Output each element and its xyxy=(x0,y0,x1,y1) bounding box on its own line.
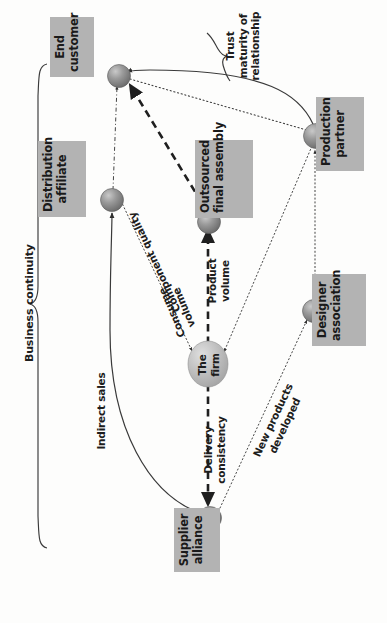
node-label-supplier-alliance[interactable]: Supplier alliance xyxy=(174,508,220,572)
node-label-line: Outsourced xyxy=(199,145,213,213)
edge-label-line: Indirect sales xyxy=(95,370,108,452)
node-label-line: Supplier xyxy=(178,513,192,567)
node-label-line: Designer xyxy=(316,279,330,341)
node-label-distribution-affiliate[interactable]: Distribution affiliate xyxy=(38,141,86,217)
edge-label-product-volume: Product volume xyxy=(206,254,232,308)
brace-label-line: Business continuity xyxy=(23,246,36,362)
node-label-line: Distribution xyxy=(42,146,56,212)
edge-label-delivery-consistency: Delivery consistency xyxy=(202,413,228,487)
node-distribution-affiliate-sphere[interactable] xyxy=(101,189,124,212)
edge-label-line: maturity of xyxy=(237,10,250,82)
node-end-customer-sphere[interactable] xyxy=(108,65,131,88)
edge-label-indirect-sales: Indirect sales xyxy=(95,370,109,452)
node-label-line: The xyxy=(196,348,209,382)
node-label-line: End xyxy=(54,22,68,72)
node-label-line: affiliate xyxy=(56,146,70,212)
node-label-line: association xyxy=(330,279,344,341)
node-label-outsourced-final-assembly[interactable]: Outsourced final assembly xyxy=(195,140,253,218)
edge-label-line: Delivery xyxy=(202,413,215,487)
node-label-line: Production xyxy=(320,102,334,166)
diagram-canvas: End customer Distribution affiliate Outs… xyxy=(0,0,387,623)
edge-label-line: relationship xyxy=(249,10,262,82)
edge-label-line: Product xyxy=(206,254,219,308)
edge-label-trust-maturity: Trust maturity of relationship xyxy=(224,10,266,82)
node-label-line: customer xyxy=(68,22,82,72)
node-label-line: alliance xyxy=(192,513,206,567)
brace-label-business-continuity: Business continuity xyxy=(23,246,37,362)
edge-production-partner-to-end-customer xyxy=(127,70,313,124)
node-label-end-customer[interactable]: End customer xyxy=(50,17,94,77)
node-label-designer-association[interactable]: Designer association xyxy=(312,274,366,346)
edge-label-line: volume xyxy=(219,254,232,308)
edge-label-line: Trust xyxy=(224,10,237,82)
node-label-production-partner[interactable]: Production partner xyxy=(316,97,364,171)
edge-label-line: consistency xyxy=(215,413,228,487)
edge-distribution-affiliate-to-end-customer xyxy=(113,86,117,190)
node-label-line: partner xyxy=(334,102,348,166)
node-label-line: firm xyxy=(209,348,222,382)
node-label-line: final assembly xyxy=(213,145,227,213)
node-label-the-firm[interactable]: The firm xyxy=(196,348,222,382)
